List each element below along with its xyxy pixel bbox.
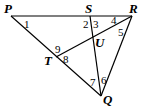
angle-label-4: 4 bbox=[111, 14, 117, 26]
angle-label-2: 2 bbox=[83, 18, 89, 30]
point-label-P: P bbox=[4, 1, 13, 16]
angle-label-9: 9 bbox=[55, 43, 61, 55]
angle-label-3: 3 bbox=[93, 18, 99, 30]
angle-label-5: 5 bbox=[118, 26, 124, 38]
point-label-Q: Q bbox=[103, 92, 113, 107]
point-label-U: U bbox=[95, 35, 105, 50]
angle-label-8: 8 bbox=[63, 53, 69, 65]
angle-label-1: 1 bbox=[24, 18, 30, 30]
angle-label-6: 6 bbox=[101, 74, 107, 86]
angle-label-7: 7 bbox=[90, 76, 96, 88]
geometry-diagram: P S R U T Q 1 2 3 4 5 6 7 8 9 bbox=[0, 0, 142, 107]
point-label-S: S bbox=[85, 1, 92, 16]
point-label-R: R bbox=[128, 1, 138, 16]
point-label-T: T bbox=[44, 53, 53, 68]
